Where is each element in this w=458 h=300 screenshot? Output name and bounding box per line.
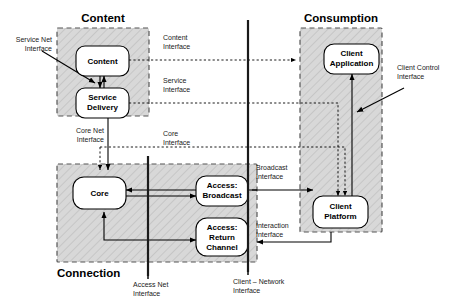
label-core-net-interface-line1: Core Net: [76, 127, 104, 134]
label-core-net-interface-line2: Interface: [77, 136, 104, 143]
label-core-interface-line2: Interface: [163, 139, 190, 146]
label-client-network-interface-line2: Interface: [233, 287, 260, 294]
node-service-delivery-line1: Service: [88, 93, 117, 102]
node-client-application-line2: Application: [330, 59, 374, 68]
label-broadcast-interface-line1: Broadcast: [256, 164, 288, 171]
label-client-control-interface-line1: Client Control: [397, 64, 440, 71]
label-broadcast-interface-line2: Interface: [256, 173, 283, 180]
node-access-broadcast-line1: Access:: [207, 181, 238, 190]
node-core-label: Core: [90, 189, 109, 198]
node-access-return-line1: Access:: [207, 223, 238, 232]
node-access-broadcast-line2: Broadcast: [202, 191, 241, 200]
zone-title-connection: Connection: [57, 267, 120, 279]
node-client-platform-line2: Platform: [324, 212, 356, 221]
node-client-platform-line1: Client: [329, 202, 352, 211]
zone-title-content: Content: [81, 12, 125, 24]
zone-title-consumption: Consumption: [304, 12, 378, 24]
node-access-return-line3: Channel: [206, 243, 238, 252]
label-content-interface-line2: Interface: [163, 43, 190, 50]
label-service-net-interface-line1: Service Net: [16, 36, 52, 43]
label-service-net-interface-line2: Interface: [25, 45, 52, 52]
label-content-interface-line1: Content: [163, 34, 188, 41]
label-interaction-interface-line1: Interaction: [256, 222, 289, 229]
label-access-net-interface-line2: Interface: [133, 290, 160, 297]
label-service-interface-line2: Interface: [163, 86, 190, 93]
label-core-interface-line1: Core: [163, 130, 178, 137]
label-client-network-interface-line1: Client – Network: [233, 278, 285, 285]
label-interaction-interface-line2: Interface: [256, 231, 283, 238]
node-service-delivery-line2: Delivery: [87, 103, 119, 112]
node-access-return-line2: Return: [209, 233, 235, 242]
label-access-net-interface-line1: Access Net: [133, 281, 168, 288]
label-service-interface-line1: Service: [163, 77, 186, 84]
diagram-canvas: Content Connection Consumption Content S…: [0, 0, 458, 300]
node-content-label: Content: [87, 57, 118, 66]
architecture-diagram: Content Connection Consumption Content S…: [0, 0, 458, 300]
label-client-control-interface-line2: Interface: [397, 73, 424, 80]
node-client-application-line1: Client: [340, 49, 363, 58]
